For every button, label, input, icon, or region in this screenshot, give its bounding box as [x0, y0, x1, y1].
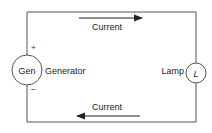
generator-minus-sign: − — [31, 85, 36, 94]
circuit-diagram: Current Current Gen + − Generator L Lamp — [0, 0, 212, 133]
lamp-symbol-text: L — [193, 69, 198, 79]
lamp-label: Lamp — [161, 66, 184, 76]
top-current-label: Current — [92, 22, 123, 32]
generator-symbol-text: Gen — [18, 66, 35, 76]
bottom-current-label: Current — [92, 102, 123, 112]
generator-label: Generator — [45, 66, 86, 76]
generator-plus-sign: + — [31, 43, 36, 52]
